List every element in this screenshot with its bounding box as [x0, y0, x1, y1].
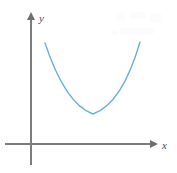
x-axis: [5, 140, 158, 148]
scan-artifacts: [112, 12, 162, 35]
parabola-curve: [45, 42, 140, 114]
x-axis-arrowhead: [150, 140, 158, 148]
figure-canvas: y x: [0, 0, 177, 173]
y-axis-label: y: [38, 12, 44, 24]
y-axis: [27, 12, 35, 165]
y-axis-arrowhead: [27, 12, 35, 20]
x-axis-label: x: [161, 139, 167, 151]
coordinate-plane-svg: y x: [0, 0, 177, 173]
